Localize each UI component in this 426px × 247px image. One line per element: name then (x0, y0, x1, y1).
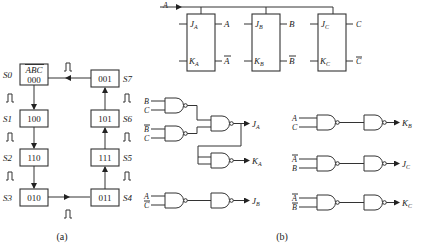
gate-network-right: A C KB A B JC A B KC (291, 114, 413, 212)
state-code-s2: 110 (27, 153, 41, 163)
state-code-s7: 001 (98, 74, 112, 84)
inversion-bubble (383, 162, 387, 166)
state-name-s2: S2 (3, 153, 13, 163)
caption-b: (b) (276, 231, 288, 243)
ff-q-label: C (356, 20, 362, 29)
state-code-s5: 111 (99, 153, 112, 163)
output-label-kb: KB (401, 118, 412, 129)
nand-gate (165, 193, 184, 208)
output-label-ka: KA (251, 156, 262, 167)
inversion-bubble (336, 121, 340, 125)
inversion-bubble (184, 132, 188, 136)
ff-qbar-label: B (289, 56, 295, 66)
flipflop-bank: A JA KA A A JB KB B B JC KC (160, 1, 362, 71)
state-and-circuit-diagram: ABC 000 S0 100 S1 110 S2 010 S3 011 S4 1… (0, 0, 426, 247)
gate-input-label: B (144, 125, 149, 134)
gate-input-label: C (144, 201, 150, 210)
nand-gate (364, 195, 383, 210)
inversion-bubble (383, 121, 387, 125)
nand-gate (317, 115, 336, 130)
state-name-s4: S4 (123, 193, 133, 203)
gate-network-left: B C B C JA KA A C (143, 97, 262, 210)
inversion-bubble (184, 199, 188, 203)
inversion-bubble (184, 104, 188, 108)
ff-q-label: A (223, 19, 230, 29)
state-name-s0: S0 (3, 70, 13, 80)
gate-input-label: A (291, 114, 297, 123)
state-name-s5: S5 (123, 153, 133, 163)
nand-gate (364, 156, 383, 171)
ff-qbar-label: A (223, 56, 230, 66)
inversion-bubble (230, 159, 234, 163)
ff-q-label: B (289, 19, 295, 29)
state-name-s3: S3 (3, 193, 13, 203)
output-label-jb: JB (252, 196, 260, 207)
state-name-s6: S6 (123, 114, 133, 124)
nand-gate (317, 156, 336, 171)
inversion-bubble (383, 201, 387, 205)
inversion-bubble (230, 199, 234, 203)
caption-a: (a) (56, 231, 67, 243)
arrowhead (64, 194, 70, 200)
clock-input-label: A (162, 1, 168, 10)
state-header-label: ABC (25, 65, 44, 75)
gate-input-label: C (144, 134, 150, 143)
gate-input-label: C (144, 106, 150, 115)
ff-qbar-label: C (356, 57, 362, 66)
output-label-ja: JA (252, 119, 260, 130)
nand-gate (211, 116, 230, 131)
nand-gate (211, 193, 230, 208)
gate-input-label: A (143, 192, 149, 201)
nand-gate (364, 115, 383, 130)
state-code-s0: 000 (27, 75, 41, 85)
wire (187, 106, 211, 121)
output-label-jc: JC (402, 159, 411, 170)
nand-gate (211, 153, 230, 168)
state-code-s4: 011 (98, 193, 111, 203)
output-label-kc: KC (401, 198, 413, 209)
gate-input-label: A (291, 194, 297, 203)
state-diagram: ABC 000 S0 100 S1 110 S2 010 S3 011 S4 1… (3, 63, 133, 243)
nand-gate (317, 195, 336, 210)
gate-input-label: B (292, 164, 297, 173)
gate-input-label: A (291, 155, 297, 164)
state-name-s1: S1 (3, 114, 12, 124)
state-code-s3: 010 (27, 193, 41, 203)
wire (187, 127, 211, 134)
gate-input-label: B (292, 203, 297, 212)
state-code-s6: 101 (98, 114, 112, 124)
nand-gate (165, 98, 184, 113)
arrowhead (65, 75, 71, 81)
nand-gate (165, 126, 184, 141)
gate-input-label: B (144, 97, 149, 106)
inversion-bubble (230, 122, 234, 126)
inversion-bubble (336, 201, 340, 205)
state-name-s7: S7 (123, 74, 133, 84)
state-code-s1: 100 (27, 114, 41, 124)
inversion-bubble (336, 162, 340, 166)
gate-input-label: C (292, 123, 298, 132)
